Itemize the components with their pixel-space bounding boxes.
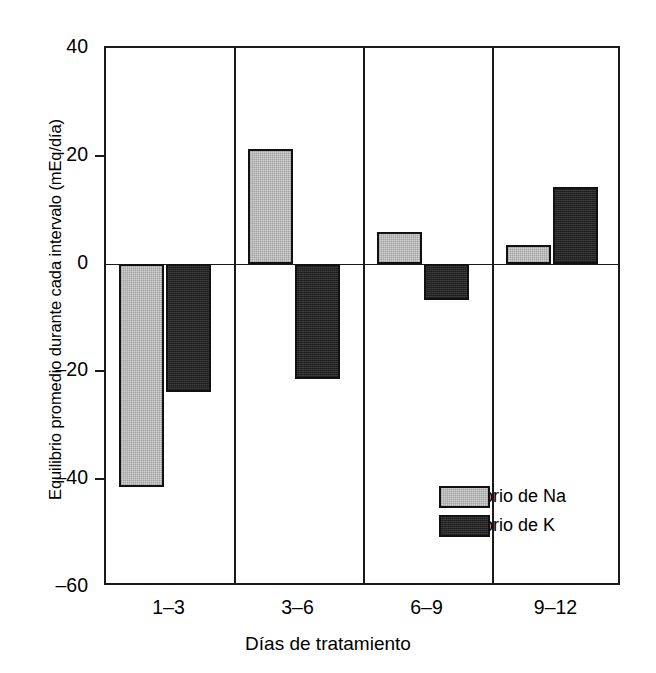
x-tick-label: 1–3 — [99, 596, 239, 619]
x-tick-label: 9–12 — [486, 596, 626, 619]
bar-na-3–6 — [248, 149, 293, 263]
legend-item-na: Equilibrio de Na — [439, 482, 566, 511]
y-tick-label: 0 — [0, 251, 88, 274]
y-tick-label: 20 — [0, 143, 88, 166]
y-tick-label: –60 — [0, 574, 88, 597]
y-axis-title: Equilibrio promedio durante cada interva… — [46, 10, 65, 610]
x-tick-label: 6–9 — [357, 596, 497, 619]
y-tick-label: –20 — [0, 358, 88, 381]
legend-item-k: Equilibrio de K — [439, 511, 566, 540]
legend-swatch-k — [439, 515, 490, 537]
bar-k-1–3 — [166, 264, 211, 392]
group-divider — [363, 48, 365, 583]
x-axis-title: Días de tratamiento — [0, 633, 656, 655]
bar-k-6–9 — [424, 264, 469, 300]
bar-na-6–9 — [377, 232, 422, 263]
group-divider — [234, 48, 236, 583]
y-tick-label: –40 — [0, 466, 88, 489]
y-tick-mark — [95, 478, 106, 480]
bar-k-9–12 — [553, 187, 598, 264]
y-tick-mark — [95, 155, 106, 157]
bar-chart-figure: Equilibrio promedio durante cada interva… — [0, 0, 656, 673]
legend: Equilibrio de Na Equilibrio de K — [439, 482, 566, 540]
y-tick-label: 40 — [0, 35, 88, 58]
x-tick-label: 3–6 — [228, 596, 368, 619]
bar-na-9–12 — [506, 245, 551, 263]
bar-k-3–6 — [295, 264, 340, 379]
bar-na-1–3 — [119, 264, 164, 487]
legend-swatch-na — [439, 486, 490, 508]
y-tick-mark — [95, 370, 106, 372]
